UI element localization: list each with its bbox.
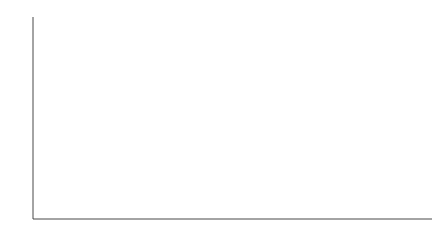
chart-canvas [0,0,440,249]
chart-figure [0,0,440,249]
chart-axes [33,17,432,219]
